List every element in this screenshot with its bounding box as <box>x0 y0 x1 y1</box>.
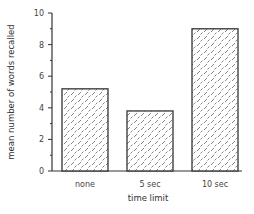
y-tick-label: 6 <box>39 72 44 81</box>
y-tick-label: 4 <box>39 104 44 113</box>
x-tick-label: 5 sec <box>139 180 160 189</box>
y-axis: 0246810 <box>34 9 52 176</box>
bar-10-sec <box>192 29 238 171</box>
bar-none <box>62 89 108 171</box>
x-axis-title: time limit <box>128 193 169 203</box>
x-tick-label: 10 sec <box>202 180 228 189</box>
y-tick-label: 8 <box>39 41 44 50</box>
bar-chart: 0246810 none5 sec10 sec time limit mean … <box>0 0 254 214</box>
bars <box>62 29 238 171</box>
x-tick-label: none <box>75 180 95 189</box>
bar-5-sec <box>127 111 173 171</box>
y-axis-title: mean number of words recalled <box>6 24 16 159</box>
y-tick-label: 2 <box>39 135 44 144</box>
x-tick-labels: none5 sec10 sec <box>75 180 228 189</box>
y-tick-label: 0 <box>39 167 44 176</box>
y-tick-label: 10 <box>34 9 44 18</box>
